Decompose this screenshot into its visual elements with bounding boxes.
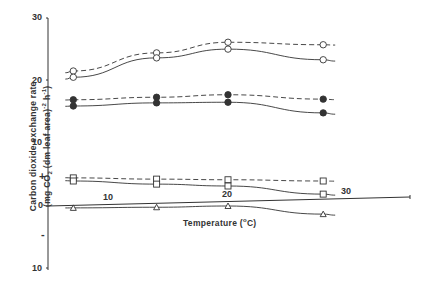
- series-layer: [65, 39, 335, 217]
- x-tick-20: 20: [222, 189, 232, 199]
- x-tick-10: 10: [103, 192, 113, 202]
- y-tick-30: 30: [32, 12, 42, 22]
- chart: 30 20 10 + 0 - 10 10 20 30 Temperature (…: [0, 0, 426, 285]
- y-axis-title-line1: Carbon dioxide exchange rate: [28, 56, 39, 236]
- filled-circle-marker: [225, 99, 231, 105]
- open-square-marker: [225, 177, 231, 183]
- open-circle-marker: [70, 68, 76, 74]
- y-axis-title: Carbon dioxide exchange rate (mg CO2 (dm…: [28, 56, 57, 236]
- filled-circle-marker: [70, 103, 76, 109]
- open-circle-marker: [225, 39, 231, 45]
- filled-circle-marker: [320, 110, 326, 116]
- series-line: [65, 42, 335, 72]
- filled-circle-marker: [153, 100, 159, 106]
- chart-plot: [0, 0, 426, 285]
- series-line: [65, 206, 335, 215]
- filled-circle-marker: [320, 96, 326, 102]
- filled-circle-marker: [225, 92, 231, 98]
- open-square-marker: [320, 178, 326, 184]
- open-square-marker: [154, 181, 160, 187]
- x-axis-title: Temperature (oC): [183, 217, 257, 228]
- open-circle-marker: [225, 46, 231, 52]
- x-tick-30: 30: [341, 186, 351, 196]
- series-line: [65, 49, 335, 79]
- open-circle-marker: [70, 74, 76, 80]
- open-square-marker: [70, 178, 76, 184]
- open-circle-marker: [153, 55, 159, 61]
- open-circle-marker: [320, 42, 326, 48]
- filled-circle-marker: [70, 97, 76, 103]
- series-line: [65, 178, 335, 181]
- open-square-marker: [320, 191, 326, 197]
- series-line: [65, 95, 335, 100]
- open-circle-marker: [320, 57, 326, 63]
- series-line: [65, 102, 335, 114]
- y-tick-neg10: 10: [32, 263, 42, 273]
- y-axis-title-line2: (mg CO2 (dm leaf area)-2 h-1): [39, 56, 57, 236]
